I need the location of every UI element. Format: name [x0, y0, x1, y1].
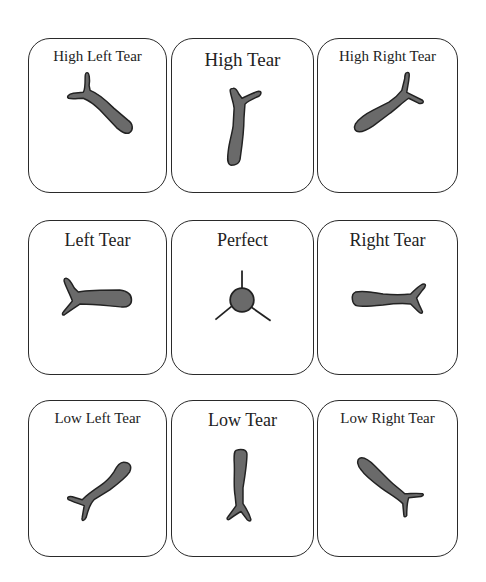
card-high-right-tear: High Right Tear	[317, 38, 458, 193]
left-tear-icon	[29, 221, 166, 374]
card-right-tear: Right Tear	[317, 220, 458, 375]
right-tear-icon	[318, 221, 457, 374]
low-right-tear-icon	[318, 401, 457, 556]
high-tear-icon	[172, 39, 313, 192]
low-tear-icon	[172, 401, 313, 556]
card-low-right-tear: Low Right Tear	[317, 400, 458, 557]
perfect-icon	[172, 221, 313, 374]
card-low-tear: Low Tear	[171, 400, 314, 557]
card-left-tear: Left Tear	[28, 220, 167, 375]
high-left-tear-icon	[29, 39, 166, 192]
card-low-left-tear: Low Left Tear	[28, 400, 167, 557]
card-high-left-tear: High Left Tear	[28, 38, 167, 193]
low-left-tear-icon	[29, 401, 166, 556]
card-high-tear: High Tear	[171, 38, 314, 193]
high-right-tear-icon	[318, 39, 457, 192]
card-perfect: Perfect	[171, 220, 314, 375]
